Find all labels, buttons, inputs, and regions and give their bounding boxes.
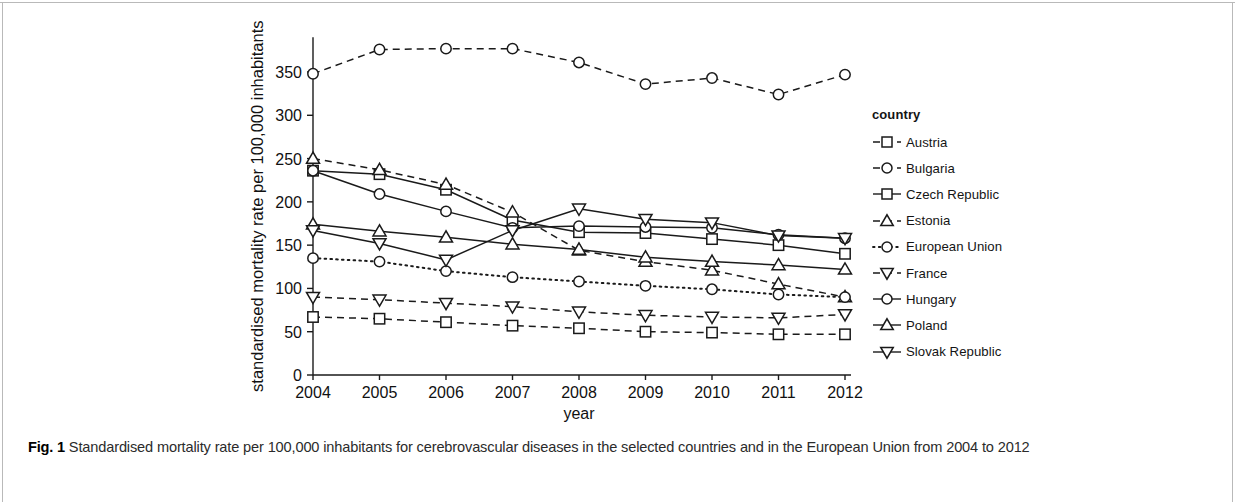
y-tick-label: 250 <box>275 151 302 168</box>
marker-circle <box>882 242 892 252</box>
marker-square <box>707 234 717 244</box>
figure-page: 0501001502002503003502004200520062007200… <box>0 0 1235 502</box>
y-tick-label: 200 <box>275 194 302 211</box>
marker-circle <box>574 221 584 231</box>
marker-triangle-up <box>506 206 519 217</box>
legend-key-triangle-up-icon <box>872 211 902 231</box>
legend-item-label: Czech Republic <box>906 187 999 202</box>
marker-square <box>640 327 650 337</box>
x-tick-label: 2008 <box>561 384 597 401</box>
legend-item-label: Estonia <box>906 213 950 228</box>
marker-square <box>882 189 892 199</box>
marker-triangle-down <box>573 307 586 318</box>
legend-title: country <box>872 107 1112 122</box>
marker-circle <box>507 43 517 53</box>
legend-key-triangle-down-icon <box>872 263 902 283</box>
x-tick-label: 2006 <box>428 384 464 401</box>
legend-item-label: France <box>906 266 947 281</box>
legend-item-bulgaria[interactable]: Bulgaria <box>872 155 1112 181</box>
marker-circle <box>773 89 783 99</box>
marker-circle <box>507 272 517 282</box>
y-tick-label: 50 <box>284 324 302 341</box>
marker-square <box>507 320 517 330</box>
y-axis-title: standardised mortality rate per 100,000 … <box>248 20 266 391</box>
marker-circle <box>308 69 318 79</box>
marker-circle <box>441 206 451 216</box>
figure-number: Fig. 1 <box>28 439 65 455</box>
marker-triangle-up <box>307 152 320 163</box>
marker-circle <box>308 165 318 175</box>
marker-square <box>308 312 318 322</box>
marker-circle <box>374 189 384 199</box>
y-tick-label: 150 <box>275 237 302 254</box>
legend-item-czech-republic[interactable]: Czech Republic <box>872 181 1112 207</box>
marker-square <box>882 137 892 147</box>
marker-circle <box>574 276 584 286</box>
legend-item-label: Austria <box>906 135 947 150</box>
legend-item-austria[interactable]: Austria <box>872 129 1112 155</box>
marker-circle <box>773 289 783 299</box>
x-tick-label: 2005 <box>362 384 398 401</box>
legend-key-circle-icon <box>872 158 902 178</box>
chart-legend: country AustriaBulgariaCzech RepublicEst… <box>872 107 1112 365</box>
legend-item-label: Hungary <box>906 292 956 307</box>
marker-triangle-down <box>373 295 386 306</box>
x-tick-label: 2010 <box>694 384 730 401</box>
marker-triangle-down <box>706 312 719 323</box>
caption-text: Standardised mortality rate per 100,000 … <box>65 439 1030 455</box>
marker-circle <box>882 294 892 304</box>
marker-square <box>840 329 850 339</box>
y-axis-ticks: 050100150200250300350 <box>275 64 313 384</box>
marker-square <box>441 317 451 327</box>
chart-figure: 0501001502002503003502004200520062007200… <box>0 0 1235 425</box>
marker-square <box>840 249 850 259</box>
y-tick-label: 0 <box>293 367 302 384</box>
figure-caption: Fig. 1 Standardised mortality rate per 1… <box>28 437 1203 458</box>
x-tick-label: 2012 <box>827 384 863 401</box>
x-axis-ticks: 200420052006200720082009201020112012 <box>295 375 863 401</box>
legend-item-european-union[interactable]: European Union <box>872 234 1112 260</box>
legend-item-poland[interactable]: Poland <box>872 312 1112 338</box>
legend-entry-list: AustriaBulgariaCzech RepublicEstoniaEuro… <box>872 129 1112 365</box>
marker-triangle-down <box>881 347 894 358</box>
x-tick-label: 2009 <box>628 384 664 401</box>
marker-triangle-up <box>881 214 894 225</box>
legend-item-hungary[interactable]: Hungary <box>872 286 1112 312</box>
series-bulgaria <box>308 43 850 99</box>
marker-triangle-up <box>440 178 453 189</box>
marker-triangle-down <box>639 311 652 322</box>
marker-square <box>574 323 584 333</box>
y-tick-label: 350 <box>275 64 302 81</box>
x-tick-label: 2007 <box>495 384 531 401</box>
x-tick-label: 2004 <box>295 384 331 401</box>
legend-key-square-icon <box>872 184 902 204</box>
series-european-union <box>308 253 850 302</box>
legend-item-label: European Union <box>906 239 1002 254</box>
marker-triangle-down <box>881 269 894 280</box>
legend-key-circle-icon <box>872 289 902 309</box>
y-tick-label: 100 <box>275 280 302 297</box>
legend-key-triangle-up-icon <box>872 315 902 335</box>
marker-triangle-down <box>772 313 785 324</box>
legend-key-circle-icon <box>872 237 902 257</box>
series-line <box>313 49 845 95</box>
marker-circle <box>840 69 850 79</box>
marker-square <box>374 314 384 324</box>
legend-key-triangle-down-icon <box>872 342 902 362</box>
x-tick-label: 2011 <box>761 384 796 401</box>
legend-item-label: Slovak Republic <box>906 344 1001 359</box>
marker-circle <box>640 79 650 89</box>
legend-item-slovak-republic[interactable]: Slovak Republic <box>872 339 1112 365</box>
marker-circle <box>441 43 451 53</box>
marker-triangle-down <box>440 255 453 266</box>
y-tick-label: 300 <box>275 107 302 124</box>
marker-triangle-up <box>881 319 894 330</box>
legend-item-label: Poland <box>906 318 947 333</box>
legend-item-label: Bulgaria <box>906 161 955 176</box>
legend-item-france[interactable]: France <box>872 260 1112 286</box>
marker-circle <box>374 256 384 266</box>
marker-circle <box>707 284 717 294</box>
marker-circle <box>308 253 318 263</box>
marker-circle <box>374 44 384 54</box>
legend-item-estonia[interactable]: Estonia <box>872 208 1112 234</box>
